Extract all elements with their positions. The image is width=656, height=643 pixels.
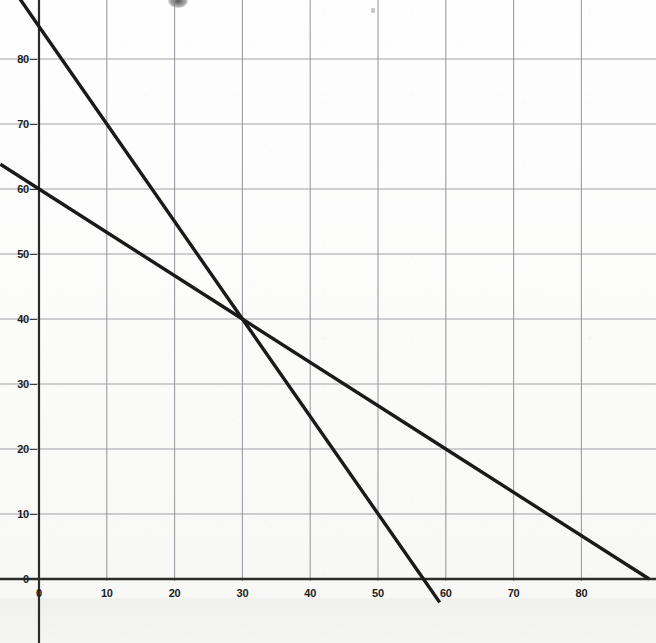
data-line-steep-line (0, 0, 439, 602)
y-tick-mark-60 (30, 189, 37, 190)
x-tick-label-30: 30 (236, 587, 248, 599)
graph-figure: 01020304050607080 01020304050607080 (0, 0, 656, 643)
x-tick-label-10: 10 (101, 587, 113, 599)
y-tick-label-10: 10 (5, 508, 29, 520)
x-tick-label-40: 40 (304, 587, 316, 599)
y-tick-mark-30 (30, 384, 37, 385)
y-tick-label-70: 70 (5, 118, 29, 130)
y-tick-label-80: 80 (5, 53, 29, 65)
x-tick-label-70: 70 (508, 587, 520, 599)
horizontal-gridlines (0, 59, 656, 514)
x-tick-label-0: 0 (36, 587, 42, 599)
y-tick-label-40: 40 (5, 313, 29, 325)
x-tick-label-60: 60 (440, 587, 452, 599)
data-lines (0, 0, 649, 602)
y-tick-mark-70 (30, 124, 37, 125)
vertical-gridlines (107, 0, 582, 581)
y-tick-mark-20 (30, 449, 37, 450)
x-tick-label-20: 20 (169, 587, 181, 599)
y-tick-label-50: 50 (5, 248, 29, 260)
y-tick-mark-80 (30, 59, 37, 60)
y-tick-mark-10 (30, 514, 37, 515)
y-tick-label-20: 20 (5, 443, 29, 455)
y-tick-label-60: 60 (5, 183, 29, 195)
y-tick-label-0: 0 (5, 573, 29, 585)
y-tick-mark-50 (30, 254, 37, 255)
y-tick-label-30: 30 (5, 378, 29, 390)
x-tick-label-50: 50 (372, 587, 384, 599)
y-tick-mark-40 (30, 319, 37, 320)
data-line-shallow-line (0, 164, 649, 579)
x-tick-label-80: 80 (575, 587, 587, 599)
plot-area (0, 0, 656, 643)
axis-lines (0, 0, 656, 643)
